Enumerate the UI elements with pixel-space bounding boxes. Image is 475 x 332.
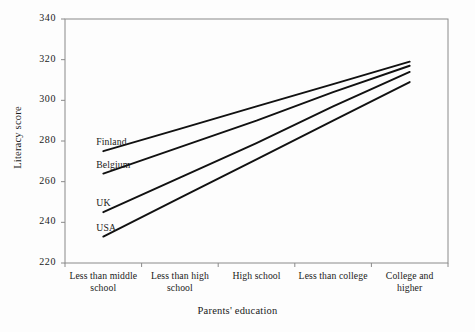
series-label-belgium: Belgium <box>96 159 130 170</box>
x-axis-title: Parents' education <box>0 305 475 316</box>
y-tick-label: 280 <box>16 134 56 145</box>
series-label-uk: UK <box>96 197 110 208</box>
y-tick-label: 240 <box>16 215 56 226</box>
series-label-finland: Finland <box>96 136 126 147</box>
x-tick-label-line: Less than middle <box>61 270 146 282</box>
series-line <box>103 66 409 174</box>
x-tick-label: High school <box>214 270 299 282</box>
x-tick-label: Less than highschool <box>138 270 223 293</box>
y-tick-label: 320 <box>16 53 56 64</box>
x-tick-label-line: Less than high <box>138 270 223 282</box>
x-tick-label: College andhigher <box>367 270 452 293</box>
y-tick-label: 260 <box>16 175 56 186</box>
y-tick-label: 340 <box>16 12 56 23</box>
series-label-usa: USA <box>96 222 116 233</box>
x-tick-label: Less than middleschool <box>61 270 146 293</box>
x-tick-label-line: school <box>138 282 223 294</box>
series-lines <box>103 62 409 237</box>
x-tick-label-line: High school <box>214 270 299 282</box>
series-line <box>103 82 409 237</box>
chart-figure: Literacy score Parents' education 340320… <box>0 0 475 332</box>
x-tick-label-line: College and <box>367 270 452 282</box>
x-tick-label-line: school <box>61 282 146 294</box>
x-tick-label-line: higher <box>367 282 452 294</box>
series-line <box>103 72 409 212</box>
y-tick-label: 300 <box>16 93 56 104</box>
series-line <box>103 62 409 151</box>
x-tick-label-line: Less than college <box>291 270 376 282</box>
y-tick-label: 220 <box>16 256 56 267</box>
x-tick-label: Less than college <box>291 270 376 282</box>
